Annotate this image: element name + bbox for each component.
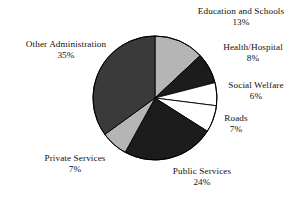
pie-label-percent: 7% bbox=[22, 164, 128, 175]
pie-label-private-services: Private Services 7% bbox=[22, 153, 128, 175]
pie-label-percent: 35% bbox=[4, 50, 128, 61]
pie-label-name: Other Administration bbox=[4, 39, 128, 50]
pie-label-percent: 13% bbox=[181, 17, 301, 28]
pie-label-name: Education and Schools bbox=[181, 6, 301, 17]
pie-label-roads: Roads 7% bbox=[205, 113, 267, 135]
pie-label-public-services: Public Services 24% bbox=[152, 166, 252, 188]
pie-label-percent: 24% bbox=[152, 177, 252, 188]
pie-label-education-and-schools: Education and Schools 13% bbox=[181, 6, 301, 28]
pie-chart-figure: Education and Schools 13% Health/Hospita… bbox=[0, 0, 305, 202]
pie-label-name: Private Services bbox=[22, 153, 128, 164]
pie-label-name: Social Welfare bbox=[209, 80, 303, 91]
pie-label-other-administration: Other Administration 35% bbox=[4, 39, 128, 61]
pie-label-name: Public Services bbox=[152, 166, 252, 177]
pie-label-name: Roads bbox=[205, 113, 267, 124]
pie-label-name: Health/Hospital bbox=[205, 42, 301, 53]
pie-label-percent: 6% bbox=[209, 91, 303, 102]
pie-label-percent: 7% bbox=[205, 124, 267, 135]
pie-label-health-hospital: Health/Hospital 8% bbox=[205, 42, 301, 64]
pie-label-percent: 8% bbox=[205, 53, 301, 64]
pie-label-social-welfare: Social Welfare 6% bbox=[209, 80, 303, 102]
